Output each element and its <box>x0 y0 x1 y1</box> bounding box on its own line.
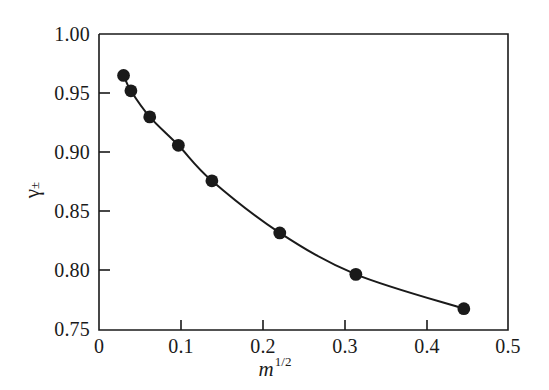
data-point <box>117 69 130 82</box>
x-tick-label-0.1: 0.1 <box>156 336 206 356</box>
axis-frame <box>99 34 508 330</box>
y-axis-title-symbol: γ <box>20 189 45 198</box>
x-tick-label-0.3: 0.3 <box>320 336 370 356</box>
data-point <box>349 268 362 281</box>
data-point <box>143 110 156 123</box>
x-tick-label-0: 0 <box>74 336 124 356</box>
y-tick-label-1.00: 1.00 <box>22 24 90 44</box>
y-axis-title-subscript: ± <box>27 182 43 189</box>
data-point-markers <box>117 69 470 315</box>
y-tick-label-0.80: 0.80 <box>22 260 90 280</box>
y-tick-label-0.90: 0.90 <box>22 142 90 162</box>
x-axis-ticks <box>181 320 427 330</box>
data-point <box>273 227 286 240</box>
data-point <box>457 302 470 315</box>
data-point <box>172 139 185 152</box>
y-axis-title: γ± <box>2 170 62 210</box>
x-tick-label-0.2: 0.2 <box>238 336 288 356</box>
y-axis-ticks <box>99 93 110 270</box>
figure-canvas: 1.00 0.95 0.90 0.85 0.80 0.75 0 0.1 0.2 … <box>0 0 549 390</box>
x-tick-label-0.4: 0.4 <box>402 336 452 356</box>
x-tick-label-0.5: 0.5 <box>483 336 533 356</box>
x-axis-title-superscript: 1/2 <box>275 354 292 369</box>
data-point <box>205 174 218 187</box>
x-axis-title-symbol: m <box>259 357 274 381</box>
data-curve <box>124 75 464 308</box>
x-axis-title: m1/2 <box>0 356 549 382</box>
y-tick-label-0.95: 0.95 <box>22 83 90 103</box>
data-point <box>124 84 137 97</box>
